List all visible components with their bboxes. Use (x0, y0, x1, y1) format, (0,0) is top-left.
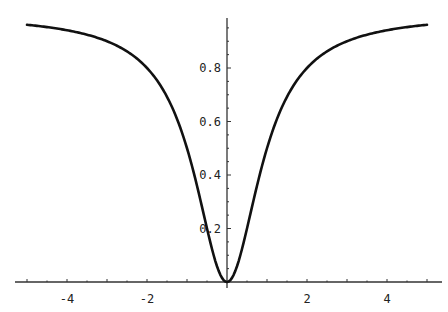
x-tick-label: 2 (303, 292, 310, 306)
x-axis-tick-labels: -4-224 (60, 292, 391, 306)
x-axis: -4-224 (15, 279, 442, 306)
x-tick-label: -4 (60, 292, 74, 306)
y-tick-label: 0.4 (199, 168, 221, 182)
y-tick-label: 0.6 (199, 115, 221, 129)
x-tick-label: -2 (140, 292, 154, 306)
x-tick-label: 4 (383, 292, 390, 306)
y-axis: 0.20.40.60.8 (199, 18, 231, 288)
y-tick-label: 0.8 (199, 61, 221, 75)
y-tick-label: 0.2 (199, 222, 221, 236)
line-chart: -4-224 0.20.40.60.8 (0, 0, 448, 312)
